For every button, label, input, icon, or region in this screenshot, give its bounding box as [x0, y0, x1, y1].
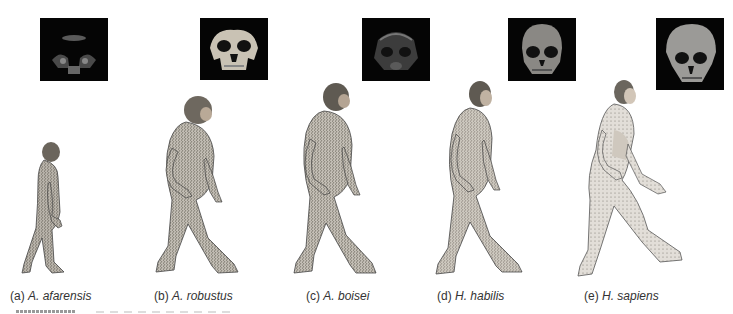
- caption-species: A. boisei: [323, 289, 369, 303]
- skull-photo-a-robustus: [200, 18, 268, 80]
- caption-e: (e) H. sapiens: [584, 289, 659, 303]
- skull-photo-a-boisei: [362, 18, 430, 81]
- caption-species: A. robustus: [172, 289, 233, 303]
- caption-letter: (c): [306, 289, 320, 303]
- figure-label-fragment: [16, 310, 76, 313]
- hominin-figure-h-sapiens: [570, 80, 688, 280]
- skull-photo-a-afarensis: [40, 18, 108, 81]
- hominin-figure-a-afarensis: [14, 142, 84, 278]
- caption-letter: (a): [10, 289, 25, 303]
- caption-letter: (b): [154, 289, 169, 303]
- caption-b: (b) A. robustus: [154, 289, 233, 303]
- hominin-figure-h-habilis: [428, 80, 534, 279]
- caption-text-fragment: [96, 311, 236, 313]
- caption-d: (d) H. habilis: [437, 289, 504, 303]
- hominin-figure-a-robustus: [148, 96, 246, 278]
- caption-species: A. afarensis: [28, 289, 91, 303]
- caption-letter: (d): [437, 289, 452, 303]
- caption-c: (c) A. boisei: [306, 289, 369, 303]
- caption-letter: (e): [584, 289, 599, 303]
- caption-species: H. habilis: [455, 289, 504, 303]
- hominin-figure-a-boisei: [284, 83, 384, 279]
- caption-a: (a) A. afarensis: [10, 289, 91, 303]
- caption-species: H. sapiens: [602, 289, 659, 303]
- skull-photo-h-habilis: [508, 18, 576, 81]
